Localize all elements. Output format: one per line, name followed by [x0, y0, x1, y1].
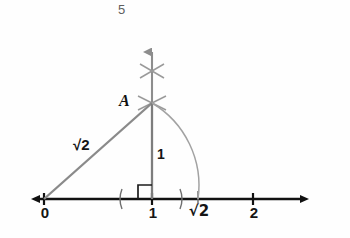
problem-number-label: 5 [118, 3, 125, 16]
axis-tick-label-sqrt2: √2 [182, 204, 216, 219]
axis-tick-label-1: 1 [145, 205, 161, 220]
vertical-leg-length-label: 1 [157, 147, 165, 161]
hypotenuse-length-label: √2 [73, 137, 90, 152]
right-angle-marker [138, 185, 152, 199]
geometry-diagram [0, 0, 350, 238]
axis-tick-label-0: 0 [37, 205, 53, 220]
figure-container: 5 0 1 √2 2 A √2 1 [0, 0, 350, 238]
hypotenuse-segment [44, 103, 152, 199]
axis-tick-label-2: 2 [246, 205, 262, 220]
vertex-label-a: A [119, 93, 130, 109]
